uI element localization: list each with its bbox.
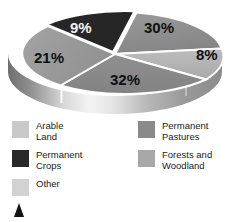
pie-slice-32-label: 32% (110, 71, 140, 88)
legend-item-permanent-crops: Permanent Crops (12, 149, 124, 171)
legend-swatch-other (12, 179, 29, 196)
legend-item-other: Other (12, 178, 124, 198)
pie-svg: 30% 8% 32% 21% 9% (0, 0, 231, 118)
legend-column-right: Permanent Pastures Forests and Woodland (138, 120, 231, 178)
legend-column-left: Arable Land Permanent Crops Other (12, 120, 124, 205)
legend-swatch-permanent-crops (12, 150, 29, 167)
pie-slice-21-label: 21% (34, 49, 64, 66)
legend-item-forests-and-woodland: Forests and Woodland (138, 149, 231, 171)
legend-label-forests-and-woodland: Forests and Woodland (162, 149, 212, 171)
pie-slice-9-label: 9% (70, 19, 92, 36)
legend-swatch-arable-land (12, 121, 29, 138)
pie-slice-8-label: 8% (196, 46, 218, 63)
pie-chart-graphic: 30% 8% 32% 21% 9% (0, 0, 231, 118)
legend-swatch-forests-and-woodland (138, 150, 155, 167)
pie-slice-30-label: 30% (144, 19, 174, 36)
legend-item-arable-land: Arable Land (12, 120, 124, 142)
chart-legend: Arable Land Permanent Crops Other Perman… (0, 120, 231, 198)
pie-chart-figure: 30% 8% 32% 21% 9% Arable Land Permanent … (0, 0, 231, 222)
legend-label-permanent-crops: Permanent Crops (36, 149, 82, 171)
legend-item-permanent-pastures: Permanent Pastures (138, 120, 231, 142)
legend-label-other: Other (36, 178, 60, 190)
legend-label-arable-land: Arable Land (36, 120, 63, 142)
up-triangle-marker (14, 203, 24, 217)
legend-swatch-permanent-pastures (138, 121, 155, 138)
legend-label-permanent-pastures: Permanent Pastures (162, 120, 208, 142)
